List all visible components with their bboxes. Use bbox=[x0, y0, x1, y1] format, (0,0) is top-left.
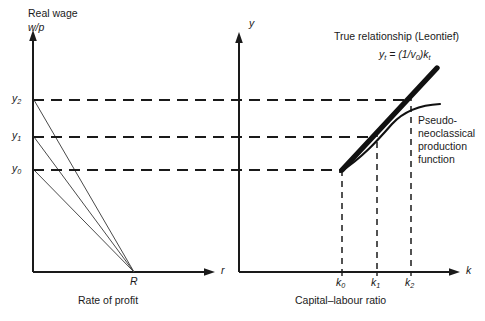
left-ytick-y2: y2 bbox=[12, 93, 21, 105]
right-xtick-k2: k2 bbox=[405, 277, 414, 289]
left-panel-axes bbox=[29, 30, 215, 276]
formula-y-sub: t bbox=[384, 53, 386, 62]
right-x-axis-symbol: k bbox=[466, 265, 471, 277]
formula-v-sub: 0 bbox=[416, 53, 420, 62]
right-x-axis-arrowhead bbox=[449, 268, 460, 276]
left-panel-header-real-wage: Real wage bbox=[28, 8, 78, 20]
left-panel-header-wp: w/p bbox=[28, 22, 44, 34]
right-y-axis-symbol: y bbox=[249, 18, 254, 30]
left-ytick-y0: y0 bbox=[12, 163, 21, 175]
right-xtick-k2-sub: 2 bbox=[410, 281, 414, 290]
right-xtick-k0-sub: 0 bbox=[341, 281, 345, 290]
left-x-axis-arrowhead bbox=[204, 268, 215, 276]
left-ytick-y2-sub: 2 bbox=[17, 97, 21, 106]
pseudo-neoclassical-label-line2: neoclassical bbox=[418, 127, 475, 140]
pseudo-neoclassical-label-line1: Pseudo- bbox=[418, 114, 457, 127]
left-ytick-y1-sub: 1 bbox=[17, 134, 21, 143]
left-ytick-y0-sub: 0 bbox=[17, 167, 21, 176]
true-relationship-label: True relationship (Leontief) bbox=[334, 31, 459, 43]
left-x-axis-caption: Rate of profit bbox=[78, 295, 138, 307]
right-y-axis-arrowhead bbox=[235, 32, 243, 43]
vertical-dashed-gridlines bbox=[342, 95, 411, 272]
economics-figure: Real wage w/p y2 y1 y0 R r Rate of profi… bbox=[0, 0, 485, 321]
left-x-axis-symbol: r bbox=[221, 265, 225, 277]
right-xtick-k0: k0 bbox=[336, 277, 345, 289]
right-xtick-k1: k1 bbox=[371, 277, 380, 289]
right-xtick-k1-sub: 1 bbox=[376, 281, 380, 290]
true-relationship-formula: yt = (1/v0)kt bbox=[379, 49, 430, 61]
left-ytick-y1: y1 bbox=[12, 130, 21, 142]
pseudo-neoclassical-label-line3: production bbox=[418, 140, 467, 153]
formula-k-sub: t bbox=[428, 53, 430, 62]
left-xtick-R: R bbox=[130, 276, 138, 288]
wage-profit-curve-y1 bbox=[34, 137, 134, 272]
right-x-axis-caption: Capital–labour ratio bbox=[295, 295, 386, 307]
pseudo-neoclassical-label-line4: function bbox=[418, 153, 455, 166]
formula-eq: = (1/v bbox=[386, 48, 415, 60]
left-panel-curves bbox=[34, 100, 134, 272]
